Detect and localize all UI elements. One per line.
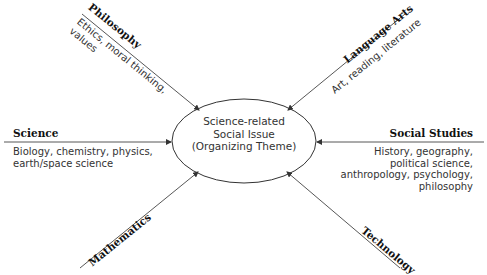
center-line-3: (Organizing Theme) (172, 140, 316, 153)
social-studies-title: Social Studies (390, 127, 473, 139)
science-desc-line-1: Biology, chemistry, physics, (13, 146, 153, 158)
social-studies-desc-line-4: philosophy (341, 181, 474, 193)
center-line-2: Social Issue (172, 128, 316, 141)
social-studies-desc-line-2: political science, (341, 158, 474, 170)
science-desc: Biology, chemistry, physics, earth/space… (13, 146, 153, 169)
social-studies-desc-line-1: History, geography, (341, 146, 474, 158)
science-title: Science (13, 127, 58, 139)
center-theme: Science-related Social Issue (Organizing… (172, 115, 316, 153)
social-studies-desc-line-3: anthropology, psychology, (341, 169, 474, 181)
philosophy-arrow (82, 14, 199, 110)
center-line-1: Science-related (172, 115, 316, 128)
science-desc-line-2: earth/space science (13, 158, 153, 170)
social-studies-desc: History, geography, political science, a… (341, 146, 474, 192)
